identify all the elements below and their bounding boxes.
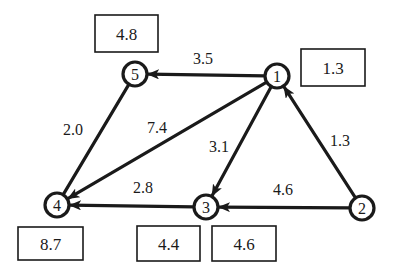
node-label: 2 (358, 200, 366, 217)
value-box-node-5: 4.8 (95, 15, 158, 52)
edge-2-3 (219, 207, 350, 208)
node-5: 5 (123, 62, 147, 86)
value-box-label: 4.4 (158, 235, 180, 254)
value-box-node-4: 8.7 (18, 227, 83, 260)
value-box-label: 8.7 (40, 235, 62, 254)
edge-weight-label: 2.0 (63, 121, 83, 138)
node-2: 2 (350, 196, 374, 220)
edge-weight-label: 3.1 (209, 138, 229, 155)
node-label: 4 (53, 197, 61, 214)
edge-weight-label: 7.4 (147, 119, 167, 136)
node-label: 3 (202, 199, 210, 216)
value-box-extra: 4.6 (212, 226, 276, 261)
graph-diagram: 3.57.43.11.34.62.82.0 1.34.48.74.84.6 12… (0, 0, 393, 276)
edge-3-4 (70, 205, 194, 207)
edge-weight-label: 4.6 (273, 181, 293, 198)
value-box-label: 4.6 (233, 235, 254, 254)
edge-1-5 (148, 74, 265, 76)
value-boxes-layer: 1.34.48.74.84.6 (18, 15, 365, 261)
node-label: 5 (131, 66, 139, 83)
edge-weight-label: 3.5 (193, 50, 213, 67)
node-label: 1 (273, 68, 281, 85)
value-box-node-3: 4.4 (137, 226, 200, 261)
edge-5-4 (64, 84, 129, 194)
node-3: 3 (194, 195, 218, 219)
edge-1-4 (68, 82, 266, 198)
value-box-label: 1.3 (322, 59, 343, 78)
node-1: 1 (265, 64, 289, 88)
value-box-label: 4.8 (116, 25, 137, 44)
value-box-node-1: 1.3 (301, 49, 365, 86)
node-4: 4 (45, 193, 69, 217)
edge-weight-label: 2.8 (133, 179, 153, 196)
edge-weight-label: 1.3 (330, 132, 350, 149)
